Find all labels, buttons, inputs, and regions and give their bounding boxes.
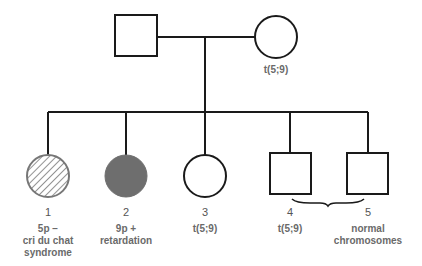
child-5-number: 5: [365, 206, 371, 218]
child-5-label: normal chromosomes: [334, 223, 402, 247]
child-4-square: [270, 153, 311, 194]
child-3-label: t(5;9): [193, 223, 217, 235]
mother-label: t(5;9): [264, 64, 288, 76]
child-4-number: 4: [287, 206, 293, 218]
child-2-filled-circle: [105, 155, 147, 197]
child-1-label: 5p − cri du chat syndrome: [23, 223, 74, 259]
child-4-label: t(5;9): [278, 223, 302, 235]
mother-circle: [255, 16, 297, 58]
child-2-number: 2: [123, 206, 129, 218]
child-3-number: 3: [202, 206, 208, 218]
child-3-circle: [184, 155, 226, 197]
child-1-number: 1: [45, 206, 51, 218]
brace-4-5: [292, 199, 364, 206]
child-5-square: [347, 153, 388, 194]
father-square: [115, 15, 157, 56]
child-1-hatched-circle: [27, 155, 69, 197]
child-2-label: 9p + retardation: [100, 223, 152, 247]
